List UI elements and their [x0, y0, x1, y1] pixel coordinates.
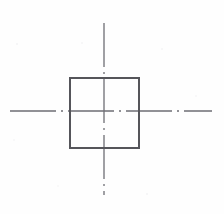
- technical-drawing-svg: [0, 0, 224, 214]
- canvas-background: [0, 0, 224, 214]
- drawing-canvas: [0, 0, 224, 214]
